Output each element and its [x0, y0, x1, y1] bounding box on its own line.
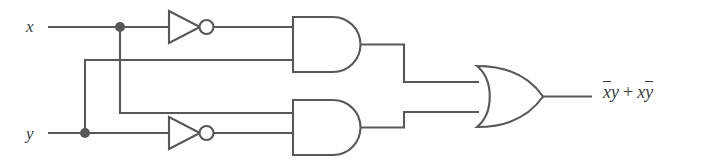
- output-operator-plus: +: [619, 82, 637, 102]
- not-gate-y-bubble: [200, 126, 214, 140]
- junction-dot-x: [115, 22, 125, 32]
- output-expression-label: xy+xy: [603, 81, 653, 103]
- input-label-x: x: [26, 18, 34, 35]
- logic-circuit-diagram: x y xy+xy: [0, 0, 706, 166]
- output-term-y: y: [611, 82, 619, 102]
- output-term-not-y: y: [645, 81, 653, 101]
- output-term-x: x: [637, 82, 645, 102]
- junction-dot-y: [80, 128, 90, 138]
- wire-x-branch-to-and-bottom: [120, 27, 293, 113]
- circuit-schematic-svg: [0, 0, 706, 166]
- not-gate-x-triangle: [169, 11, 200, 43]
- not-gate-x-bubble: [200, 20, 214, 34]
- and-gate-bottom-body: [293, 100, 361, 155]
- wire-and-top-output: [361, 45, 480, 83]
- or-gate-body: [477, 66, 543, 127]
- wire-y-branch-to-and-top: [85, 60, 293, 133]
- not-gate-y-triangle: [169, 117, 200, 149]
- wire-and-bottom-output: [361, 112, 480, 128]
- and-gate-top-body: [293, 17, 360, 72]
- input-label-y: y: [26, 125, 34, 142]
- output-term-not-x: x: [603, 81, 611, 101]
